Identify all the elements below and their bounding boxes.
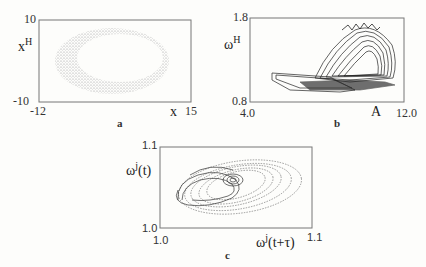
panel-c-plot	[0, 0, 426, 267]
panel-c-ymin: 1.0	[142, 222, 157, 234]
panel-c-xmin: 1.0	[153, 234, 168, 246]
panel-c-xlabel: ωj(t+τ)	[256, 232, 295, 251]
panel-c-xmax: 1.1	[307, 231, 322, 243]
panel-c-label: c	[225, 249, 230, 261]
panel-c-ylabel: ωj(t)	[126, 160, 151, 179]
panel-c-ymax: 1.1	[142, 139, 157, 151]
